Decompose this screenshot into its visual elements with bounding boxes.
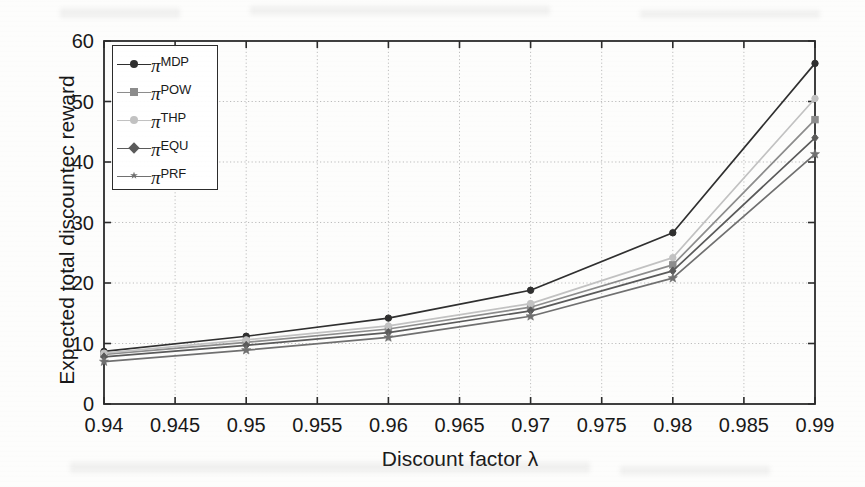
legend-marker-icon xyxy=(117,84,151,102)
legend-marker-icon xyxy=(117,168,151,186)
legend-marker-icon xyxy=(117,56,151,74)
legend-item-prf: πPRF xyxy=(113,162,219,191)
legend-label: πEQU xyxy=(151,139,188,159)
legend-marker-icon xyxy=(117,112,151,130)
legend-marker-icon xyxy=(117,140,151,158)
chart-figure: Expected total discountec reward Discoun… xyxy=(0,0,865,487)
legend-item-pow: πPOW xyxy=(113,78,219,107)
legend-label: πPRF xyxy=(151,167,186,187)
legend-label: πTHP xyxy=(151,111,186,131)
legend: πMDPπPOWπTHPπEQUπPRF xyxy=(112,45,218,190)
legend-item-equ: πEQU xyxy=(113,134,219,163)
legend-label: πMDP xyxy=(151,55,189,75)
legend-item-thp: πTHP xyxy=(113,106,219,135)
legend-label: πPOW xyxy=(151,83,191,103)
legend-item-mdp: πMDP xyxy=(113,50,219,79)
